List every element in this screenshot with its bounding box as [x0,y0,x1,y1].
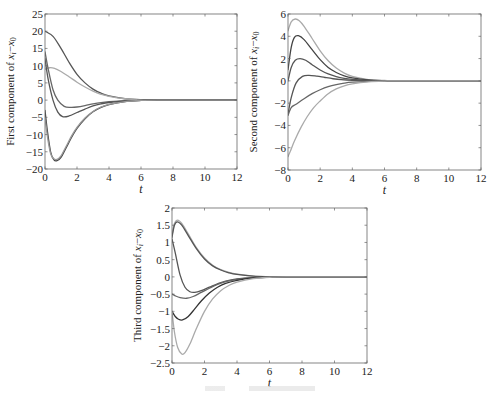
series-group [288,19,481,157]
y-tick-label: 2 [165,202,171,214]
y-tick-label: 0.5 [156,254,170,266]
y-tick-label: 0 [281,75,287,87]
y-tick-label: −20 [26,163,44,175]
series-line-agent-f [45,100,237,160]
y-tick-label: 5 [38,77,44,89]
x-tick-label: 12 [476,172,487,184]
y-tick-label: −2.5 [150,357,170,369]
y-tick-label: −8 [274,164,286,176]
x-tick-label: 8 [299,365,305,377]
y-tick-label: 0 [38,94,44,106]
y-tick-label: 20 [32,25,44,37]
axes-frame [45,14,237,169]
series-line-agent-b [172,222,367,277]
y-tick-label: 25 [32,8,44,20]
y-tick-label: 15 [32,42,44,54]
y-tick-label: −1.5 [150,323,170,335]
y-tick-label: 2 [281,53,287,65]
series-group [45,31,237,161]
third-component-plot: 024681012−2.5−2−1.5−1−0.500.511.52tThird… [131,202,373,390]
y-axis-label: Third component of xi−x0 [131,229,145,342]
axes-frame [172,208,367,363]
series-line-agent-d [45,59,237,117]
series-line-agent-a [172,220,367,277]
series-line-agent-e [45,100,237,161]
first-component-plot: 024681012−20−15−10−50510152025tFirst com… [4,8,243,196]
x-tick-label: 0 [285,172,291,184]
y-tick-label: −6 [274,142,286,154]
y-tick-label: 10 [32,60,44,72]
y-tick-label: −2 [274,97,286,109]
series-line-agent-b [45,68,237,100]
y-tick-label: −1 [158,305,170,317]
x-axis-label: t [383,183,387,197]
y-tick-label: 1.5 [156,219,170,231]
y-tick-label: 6 [281,8,287,20]
figure-canvas: 024681012−20−15−10−50510152025tFirst com… [0,0,495,395]
y-tick-label: 4 [281,30,287,42]
series-line-agent-f [172,277,367,355]
axes-frame [288,14,481,170]
x-tick-label: 8 [414,172,420,184]
series-line-agent-c [172,239,367,292]
x-tick-label: 4 [234,365,240,377]
x-tick-label: 4 [350,172,356,184]
x-tick-label: 12 [362,365,373,377]
x-tick-label: 10 [443,172,455,184]
figure-caption [205,386,315,391]
series-line-agent-c [288,59,481,81]
y-tick-label: −10 [26,129,44,141]
series-group [172,220,367,354]
x-tick-label: 0 [42,171,48,183]
y-tick-label: 1 [165,236,171,248]
x-tick-label: 4 [106,171,112,183]
x-tick-label: 12 [232,171,243,183]
y-tick-label: −2 [158,340,170,352]
x-tick-label: 0 [169,365,175,377]
series-line-agent-a [288,19,481,81]
series-line-agent-e [288,81,481,116]
series-line-agent-b [288,36,481,81]
series-line-agent-a [45,31,237,100]
second-component-plot: 024681012−8−6−4−20246tSecond component o… [247,8,487,197]
y-tick-label: −15 [26,146,44,158]
x-tick-label: 2 [74,171,80,183]
series-line-agent-d [172,277,367,298]
x-tick-label: 2 [202,365,208,377]
y-tick-label: −0.5 [150,288,170,300]
y-tick-label: 0 [165,271,171,283]
y-axis-label: Second component of xi−x0 [247,32,261,153]
x-tick-label: 2 [317,172,323,184]
y-tick-label: −4 [274,119,286,131]
x-tick-label: 10 [329,365,341,377]
x-axis-label: t [139,182,143,196]
y-axis-label: First component of xi−x0 [4,37,18,146]
series-line-agent-e [172,277,367,320]
x-tick-label: 8 [170,171,176,183]
y-tick-label: −5 [31,111,43,123]
series-line-agent-f [288,81,481,157]
x-tick-label: 10 [200,171,212,183]
